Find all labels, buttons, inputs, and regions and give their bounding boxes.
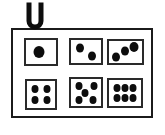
die-pip [112, 52, 120, 61]
die-pip [122, 84, 129, 92]
die-pip [32, 85, 39, 93]
die-pip [43, 96, 50, 104]
die-pip [75, 96, 82, 104]
hanger-clip-icon [24, 2, 46, 31]
die-pip [113, 94, 120, 102]
die-pip [76, 43, 84, 52]
die-pip [88, 51, 96, 60]
die-pip [89, 96, 96, 104]
die-pip [34, 46, 45, 58]
die-pip [32, 96, 39, 104]
die-pip [121, 47, 129, 56]
dice-board [11, 28, 153, 118]
die-face-6 [107, 78, 143, 108]
die-pip [130, 94, 137, 102]
die-pip [113, 84, 120, 92]
dice-board-illustration [0, 0, 165, 135]
die-face-4 [25, 79, 57, 110]
die-face-2 [69, 38, 103, 65]
die-face-1 [24, 38, 58, 66]
die-pip [90, 82, 97, 90]
die-pip [129, 42, 138, 52]
die-pip [81, 89, 88, 97]
clip-u-shape [29, 3, 41, 28]
die-pip [130, 84, 137, 92]
die-face-3 [107, 39, 144, 65]
die-pip [122, 94, 129, 102]
die-face-5 [69, 77, 103, 108]
die-pip [43, 85, 50, 93]
die-pip [75, 82, 82, 90]
